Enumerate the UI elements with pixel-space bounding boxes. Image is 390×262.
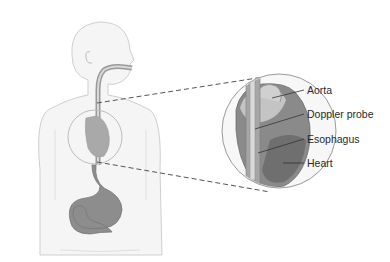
label-heart: Heart [307,157,333,169]
label-aorta: Aorta [307,84,332,96]
anatomy-diagram [0,0,390,262]
label-esophagus: Esophagus [307,133,360,145]
label-doppler-probe: Doppler probe [307,108,374,120]
